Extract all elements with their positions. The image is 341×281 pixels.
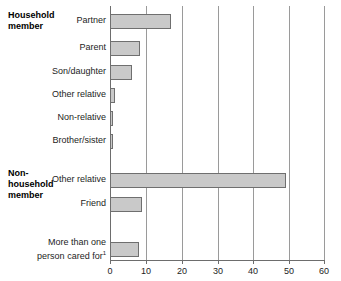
category-label-friend: Friend <box>2 198 106 209</box>
bar-other-relative-nhh <box>110 173 286 188</box>
bar-parent <box>110 41 140 56</box>
bar-partner <box>110 14 171 29</box>
x-tick-label-30: 30 <box>213 266 223 276</box>
category-label-other-relative-hh: Other relative <box>2 89 106 100</box>
bar-non-relative <box>110 111 113 126</box>
gridline-60 <box>324 6 325 260</box>
x-tick-label-20: 20 <box>177 266 187 276</box>
category-label-more-than-one: More than one person cared for1 <box>2 237 106 262</box>
bar-brother-sister <box>110 134 113 149</box>
bar-friend <box>110 197 142 212</box>
gridline-50 <box>289 6 290 260</box>
category-label-partner: Partner <box>2 15 106 26</box>
x-tick-label-50: 50 <box>284 266 294 276</box>
category-label-brother-sister: Brother/sister <box>2 135 106 146</box>
category-label-more-than-one-line1: More than one <box>48 237 106 247</box>
gridline-30 <box>218 6 219 260</box>
x-tick-20 <box>182 260 183 264</box>
footnote-marker: 1 <box>103 250 106 256</box>
gridline-10 <box>146 6 147 260</box>
category-label-other-relative-nhh: Other relative <box>2 174 106 185</box>
x-tick-label-0: 0 <box>107 266 112 276</box>
gridline-40 <box>253 6 254 260</box>
bar-son-daughter <box>110 65 132 80</box>
x-tick-10 <box>146 260 147 264</box>
category-label-non-relative: Non-relative <box>2 112 106 123</box>
bar-chart: Household member Non- household member P… <box>0 0 341 281</box>
category-label-parent: Parent <box>2 42 106 53</box>
bar-more-than-one <box>110 242 139 257</box>
x-tick-50 <box>289 260 290 264</box>
bar-other-relative-hh <box>110 88 115 103</box>
x-tick-label-10: 10 <box>141 266 151 276</box>
x-tick-30 <box>218 260 219 264</box>
gridline-20 <box>182 6 183 260</box>
x-tick-label-60: 60 <box>319 266 329 276</box>
category-label-son-daughter: Son/daughter <box>2 66 106 77</box>
plot-area <box>110 6 325 260</box>
x-tick-60 <box>324 260 325 264</box>
x-tick-0 <box>110 260 111 264</box>
group-label-nonhousehold: Non- household member <box>8 168 78 201</box>
x-tick-label-40: 40 <box>248 266 258 276</box>
category-label-more-than-one-line2: person cared for <box>37 251 103 261</box>
x-tick-40 <box>253 260 254 264</box>
